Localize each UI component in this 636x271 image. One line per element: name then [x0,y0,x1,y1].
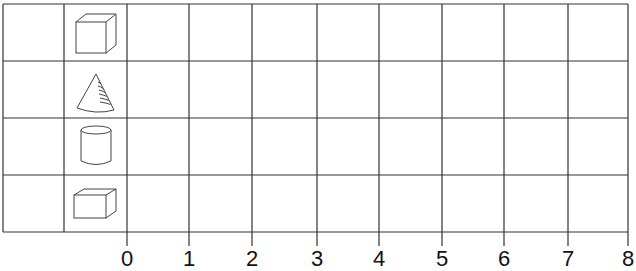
x-tick-label: 5 [436,246,448,271]
x-tick-label: 4 [373,246,385,271]
bar-graph-template: 012345678 [0,0,636,271]
x-tick-label: 2 [246,246,258,271]
x-tick-label: 7 [562,246,574,271]
x-tick-label: 3 [311,246,323,271]
x-tick-label: 1 [183,246,195,271]
cone-icon [77,74,114,112]
cylinder-icon [81,126,111,165]
category-icons [74,14,116,218]
x-tick-label: 8 [622,246,634,271]
cube-icon [76,14,116,53]
x-axis-ticks: 012345678 [121,246,634,271]
x-tick-label: 0 [121,246,133,271]
rectangular-prism-icon [74,189,116,218]
x-tick-label: 6 [498,246,510,271]
